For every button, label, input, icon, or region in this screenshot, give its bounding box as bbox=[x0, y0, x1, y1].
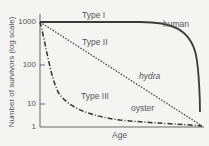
human-label: human bbox=[163, 20, 189, 29]
tick-label-1: 1 bbox=[14, 123, 36, 131]
hydra-label: hydra bbox=[139, 72, 160, 81]
type1-label: Type I bbox=[82, 11, 105, 20]
y-axis-label: Number of survivors (log scale) bbox=[8, 2, 16, 142]
tick-label-1000: 1000 bbox=[14, 18, 36, 26]
type3-label: Type III bbox=[81, 92, 109, 101]
survivorship-chart: 1000 100 10 1 Number of survivors (log s… bbox=[0, 0, 209, 146]
type2-label: Type II bbox=[82, 38, 108, 47]
type2-curve bbox=[40, 22, 202, 126]
tick-label-100: 100 bbox=[14, 61, 36, 69]
tick-label-10: 10 bbox=[14, 100, 36, 108]
oyster-label: oyster bbox=[131, 104, 154, 113]
x-axis-label: Age bbox=[112, 131, 127, 140]
